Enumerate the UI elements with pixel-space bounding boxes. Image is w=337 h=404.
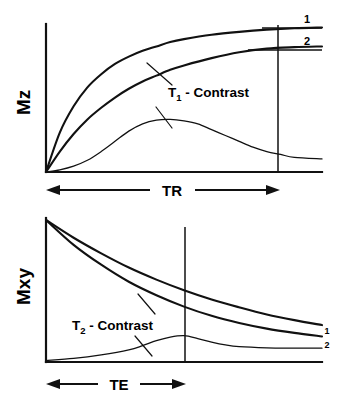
top-curve-label-1: 1 (304, 13, 310, 25)
bottom-contrast-annotation: T2 - Contrast (72, 318, 154, 336)
bottom-pointer-tick-upper (138, 294, 155, 314)
mri-contrast-figure: Mz 1 2 T1 - Contrast TR (0, 0, 337, 404)
te-arrow-head-right (172, 379, 186, 389)
bottom-curve-series-1 (46, 220, 322, 325)
top-pointer-tick-upper (147, 63, 172, 85)
tr-arrow-head-left (46, 185, 60, 195)
top-contrast-rest: - Contrast (182, 85, 250, 100)
top-y-axis-label: Mz (13, 90, 34, 115)
bottom-y-axis-label: Mxy (13, 268, 34, 305)
top-contrast-annotation: T1 - Contrast (168, 85, 250, 103)
bottom-panel: Mxy 1 2 T2 - Contrast TE (13, 218, 330, 393)
bottom-curve-label-1: 1 (324, 326, 329, 336)
tr-arrow-head-right (266, 185, 280, 195)
tr-span-arrow: TR (46, 182, 280, 199)
bottom-contrast-rest: - Contrast (86, 318, 154, 333)
top-curve-difference (46, 119, 322, 172)
top-panel: Mz 1 2 T1 - Contrast TR (13, 13, 322, 199)
bottom-curve-difference (46, 336, 322, 361)
bottom-pointer-tick-lower (135, 336, 152, 356)
top-pointer-tick-lower (156, 107, 172, 128)
top-curve-series-2 (46, 46, 322, 172)
bottom-curve-label-2: 2 (324, 340, 329, 350)
te-span-label: TE (109, 376, 128, 393)
top-curve-label-2: 2 (304, 35, 310, 47)
te-arrow-head-left (46, 379, 60, 389)
tr-span-label: TR (162, 182, 182, 199)
te-span-arrow: TE (46, 376, 186, 393)
